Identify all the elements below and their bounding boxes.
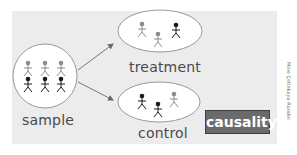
control-label: control [138,125,188,141]
sample-label: sample [22,112,74,128]
arrow-to-treatment [78,44,113,70]
treatment-ellipse [118,10,202,52]
arrow-to-control [78,82,113,100]
sample-circle [13,44,77,108]
causality-badge: causality [205,110,270,134]
treatment-label: treatment [129,59,201,75]
author-credit: Mine Çetinkaya-Rundel [286,62,292,120]
